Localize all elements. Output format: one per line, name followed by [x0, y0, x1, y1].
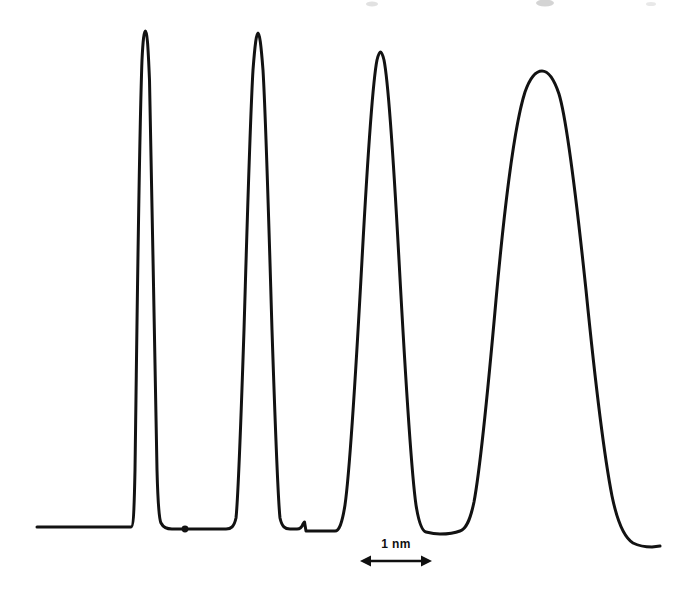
scan-speck-icon — [536, 0, 554, 7]
stm-line-profile-figure: 1 nm — [0, 0, 678, 589]
double-headed-arrow-icon — [358, 553, 434, 569]
scan-speck-icon — [646, 2, 656, 6]
scale-bar-label: 1 nm — [358, 538, 434, 551]
scan-speck-icon — [366, 2, 378, 7]
trough-dot-marker-icon — [182, 526, 189, 533]
trace-canvas — [0, 0, 678, 589]
profile-trace — [37, 31, 660, 547]
scale-bar: 1 nm — [358, 538, 434, 578]
